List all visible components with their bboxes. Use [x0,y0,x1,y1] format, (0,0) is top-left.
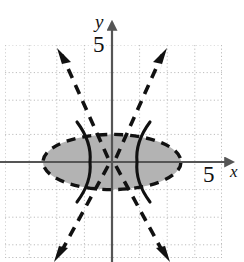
y-axis-label: y [95,12,103,31]
y-axis-tick-label-5: 5 [93,33,105,56]
plot-canvas [0,0,244,262]
x-axis-label: x [230,163,238,180]
arrowhead-lower-right [156,236,170,262]
x-axis-tick-label-5: 5 [203,163,215,186]
arrowhead-lower-left [54,236,68,262]
conic-graph-figure: y 5 5 x [0,0,244,262]
